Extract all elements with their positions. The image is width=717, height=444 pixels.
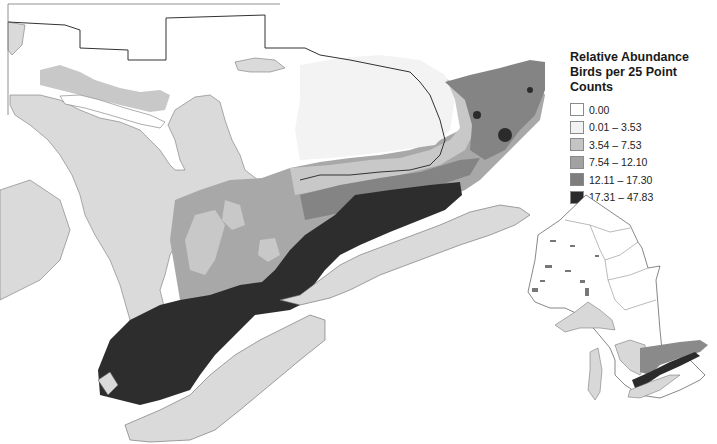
legend-label-1: 0.01 – 3.53	[589, 121, 642, 133]
legend-item-0: 0.00	[570, 101, 717, 119]
swatch-0	[570, 103, 584, 116]
swatch-3	[570, 156, 584, 169]
legend-label-0: 0.00	[589, 104, 609, 116]
inset-province-outline	[528, 195, 705, 398]
legend-label-2: 3.54 – 7.53	[589, 139, 642, 151]
inset-lake-michigan	[588, 348, 602, 400]
legend-label-3: 7.54 – 12.10	[589, 156, 647, 168]
dark-spot-3	[527, 87, 533, 93]
dark-spot-1	[498, 128, 512, 142]
legend-item-2: 3.54 – 7.53	[570, 136, 717, 154]
dark-spot-2	[473, 111, 481, 119]
legend-item-1: 0.01 – 3.53	[570, 119, 717, 137]
legend-item-3: 7.54 – 12.10	[570, 154, 717, 172]
swatch-2	[570, 138, 584, 151]
legend-title-line1: Relative Abundance	[570, 50, 717, 65]
algonquin-low-zone	[295, 55, 455, 160]
swatch-1	[570, 121, 584, 134]
legend-title-line2: Birds per 25 Point Counts	[570, 65, 717, 95]
inset-map-ontario	[520, 180, 717, 444]
